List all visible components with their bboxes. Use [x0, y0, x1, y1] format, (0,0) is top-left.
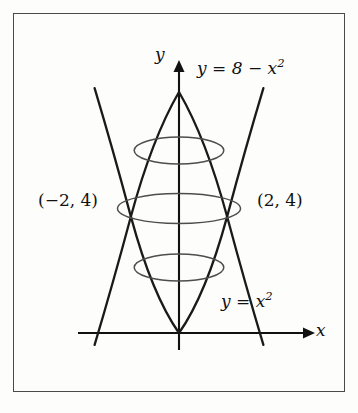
- label-curve-lower-exponent: 2: [265, 289, 272, 303]
- label-curve-upper-text: y = 8 − x: [197, 58, 277, 78]
- y-axis-arrowhead: [174, 60, 185, 72]
- label-curve-upper-exponent: 2: [277, 56, 284, 70]
- figure-container: y = 8 − x2 y = x2 (−2, 4) (2, 4) x y: [0, 0, 358, 413]
- label-y-axis: y: [155, 46, 165, 63]
- label-curve-lower-equation: y = x2: [221, 291, 273, 310]
- label-intersection-point-right: (2, 4): [257, 192, 303, 209]
- label-curve-upper-equation: y = 8 − x2: [197, 58, 284, 77]
- label-x-axis: x: [316, 322, 326, 339]
- label-curve-lower-text: y = x: [221, 291, 265, 311]
- label-intersection-point-left: (−2, 4): [38, 192, 98, 209]
- x-axis-arrowhead: [303, 328, 315, 339]
